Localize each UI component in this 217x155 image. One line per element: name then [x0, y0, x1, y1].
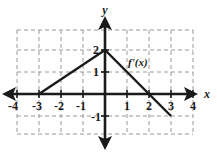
y-tick-label-pos2: 2 — [93, 43, 99, 57]
y-tick-label-neg1: -1 — [91, 110, 101, 124]
x-tick-label-neg1: -1 — [76, 99, 86, 113]
x-tick-label-neg2: -2 — [54, 99, 64, 113]
x-tick-label-pos2: 2 — [146, 99, 152, 113]
graph-figure: -4 -3 -2 -1 1 2 3 4 2 1 -1 y x f'(x) — [0, 0, 217, 155]
coordinate-plane-graph: -4 -3 -2 -1 1 2 3 4 2 1 -1 y x f'(x) — [0, 0, 217, 155]
x-tick-label-pos4: 4 — [190, 99, 196, 113]
x-tick-label-pos1: 1 — [124, 99, 130, 113]
y-axis — [98, 16, 112, 150]
x-axis-label: x — [203, 87, 210, 101]
x-tick-label-neg4: -4 — [8, 99, 18, 113]
y-axis-label: y — [100, 3, 108, 17]
curve-label-f-prime: f'(x) — [128, 56, 148, 69]
x-tick-label-neg3: -3 — [32, 99, 42, 113]
y-tick-label-pos1: 1 — [93, 65, 99, 79]
x-tick-label-pos3: 3 — [168, 99, 174, 113]
